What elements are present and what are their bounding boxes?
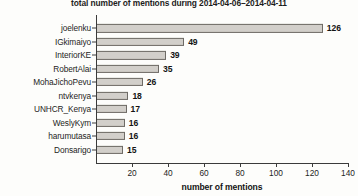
bar-value-label: 15 [127,145,136,155]
bar-row: harumutasa16 [96,129,348,142]
bar [96,78,143,86]
y-axis-line [96,15,97,163]
x-axis-tick [240,163,241,167]
x-axis-tick [132,163,133,167]
x-axis-tick [276,163,277,167]
bar-row: joelenku126 [96,22,348,35]
category-label: InteriorKE [55,50,91,60]
bar-value-label: 49 [188,37,197,47]
category-label: UNHCR_Kenya [34,104,91,114]
x-axis-title: number of mentions [96,182,348,192]
bar-row: InteriorKE39 [96,49,348,62]
x-axis-tick-label: 120 [305,168,319,178]
x-axis-tick-label: 40 [163,168,172,178]
bar-value-label: 16 [129,131,138,141]
bar [96,145,123,153]
category-label: harumutasa [48,131,91,141]
bar-value-label: 26 [147,77,156,87]
category-label: WeslyKym [53,118,91,128]
x-axis-tick [312,163,313,167]
category-label: Donsarigo [54,145,91,155]
category-label: ntvkenya [59,91,91,101]
bar-value-label: 18 [132,91,141,101]
bar-value-label: 17 [131,104,140,114]
bar-row: MohaJichoPevu26 [96,76,348,89]
bar-row: WeslyKym16 [96,116,348,129]
bar [96,24,323,32]
x-axis-tick [348,163,349,167]
bar [96,132,125,140]
bar-value-label: 126 [327,23,341,33]
bar-value-label: 16 [129,118,138,128]
plot-area: joelenku126IGkimaiyo49InteriorKE39Robert… [96,15,348,163]
chart-title: total number of mentions during 2014-04-… [0,0,358,8]
bar [96,105,127,113]
x-axis-tick [168,163,169,167]
bar [96,65,159,73]
bar-row: UNHCR_Kenya17 [96,102,348,115]
category-label: IGkimaiyo [55,37,91,47]
bar-row: ntvkenya18 [96,89,348,102]
x-axis-line [96,163,348,164]
x-axis-tick-label: 100 [269,168,283,178]
category-label: MohaJichoPevu [33,77,91,87]
category-label: RobertAlai [53,64,91,74]
bar [96,119,125,127]
bar-value-label: 35 [163,64,172,74]
bar-value-label: 39 [170,50,179,60]
bar-row: RobertAlai35 [96,62,348,75]
x-axis-tick-label: 80 [235,168,244,178]
bar-chart: total number of mentions during 2014-04-… [0,0,358,196]
bar [96,92,128,100]
x-axis-tick-label: 20 [127,168,136,178]
x-axis-tick-label: 140 [341,168,355,178]
x-axis-tick-label: 60 [199,168,208,178]
bar-row: Donsarigo15 [96,143,348,156]
bar [96,51,166,59]
bar [96,38,184,46]
bar-row: IGkimaiyo49 [96,35,348,48]
x-axis-tick [204,163,205,167]
category-label: joelenku [61,23,91,33]
